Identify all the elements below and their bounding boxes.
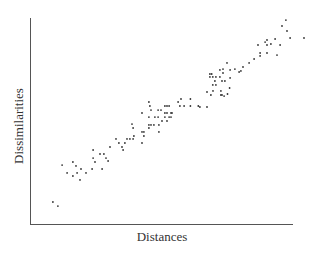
- data-point: [257, 44, 259, 46]
- data-point: [215, 84, 217, 86]
- data-point: [85, 172, 87, 174]
- data-point: [264, 41, 266, 43]
- data-point: [226, 62, 228, 64]
- data-point: [158, 124, 160, 126]
- data-point: [132, 138, 134, 140]
- data-point: [124, 142, 126, 144]
- data-point: [212, 76, 214, 78]
- data-point: [276, 54, 278, 56]
- data-point: [229, 87, 231, 89]
- data-point: [154, 116, 156, 118]
- data-point: [206, 106, 208, 108]
- data-point: [75, 165, 77, 167]
- data-point: [222, 72, 224, 74]
- data-point: [199, 106, 201, 108]
- data-point: [279, 44, 281, 46]
- data-point: [132, 127, 134, 129]
- data-point: [266, 44, 268, 46]
- data-point: [103, 153, 105, 155]
- data-point: [303, 37, 305, 39]
- data-point: [66, 172, 68, 174]
- data-point: [99, 153, 101, 155]
- data-point: [270, 43, 272, 45]
- data-point: [274, 38, 276, 40]
- data-point: [101, 168, 103, 170]
- data-point: [211, 73, 213, 75]
- data-point: [190, 98, 192, 100]
- data-point: [148, 124, 150, 126]
- data-point: [141, 112, 143, 114]
- data-point: [210, 94, 212, 96]
- data-point: [190, 105, 192, 107]
- data-point: [285, 19, 287, 21]
- data-point: [209, 76, 211, 78]
- data-point: [242, 66, 244, 68]
- data-point: [94, 161, 96, 163]
- data-point: [107, 160, 109, 162]
- data-point: [168, 116, 170, 118]
- data-point: [166, 105, 168, 107]
- data-point: [281, 25, 283, 27]
- data-point: [266, 39, 268, 41]
- data-point: [221, 94, 223, 96]
- data-point: [289, 37, 291, 39]
- data-point: [209, 73, 211, 75]
- data-point: [133, 135, 135, 137]
- data-point: [259, 55, 261, 57]
- data-point: [221, 80, 223, 82]
- data-point: [126, 138, 128, 140]
- data-point: [224, 80, 226, 82]
- data-point: [129, 138, 131, 140]
- data-point: [240, 70, 242, 72]
- data-point: [80, 168, 82, 170]
- data-point: [150, 124, 152, 126]
- data-point: [150, 109, 152, 111]
- data-point: [197, 105, 199, 107]
- data-point: [157, 109, 159, 111]
- data-point: [160, 109, 162, 111]
- data-point: [79, 179, 81, 181]
- data-point: [57, 205, 59, 207]
- data-point: [238, 71, 240, 73]
- data-point: [220, 90, 222, 92]
- data-point: [219, 76, 221, 78]
- data-point: [171, 112, 173, 114]
- data-point: [179, 105, 181, 107]
- data-point: [61, 164, 63, 166]
- data-point: [248, 62, 250, 64]
- data-point: [223, 95, 225, 97]
- data-point: [91, 168, 93, 170]
- data-point: [229, 69, 231, 71]
- data-point: [215, 76, 217, 78]
- data-point: [131, 123, 133, 125]
- data-point: [76, 172, 78, 174]
- data-point: [115, 138, 117, 140]
- data-point: [222, 68, 224, 70]
- data-point: [286, 30, 288, 32]
- data-point: [266, 52, 268, 54]
- data-point: [148, 127, 150, 129]
- data-point: [183, 105, 185, 107]
- data-point: [143, 135, 145, 137]
- data-point: [158, 131, 160, 133]
- data-point: [212, 90, 214, 92]
- scatter-chart: [0, 0, 312, 255]
- data-point: [234, 68, 236, 70]
- data-point: [214, 80, 216, 82]
- data-point: [166, 120, 168, 122]
- data-point: [227, 93, 229, 95]
- data-point: [177, 101, 179, 103]
- data-point: [164, 116, 166, 118]
- data-point: [153, 124, 155, 126]
- data-point: [180, 98, 182, 100]
- data-point: [149, 105, 151, 107]
- data-point: [219, 69, 221, 71]
- data-point: [143, 131, 145, 133]
- data-point: [166, 112, 168, 114]
- data-point: [229, 77, 231, 79]
- data-point: [164, 105, 166, 107]
- data-point: [253, 58, 255, 60]
- data-point: [109, 146, 111, 148]
- data-point: [259, 52, 261, 54]
- data-point: [92, 149, 94, 151]
